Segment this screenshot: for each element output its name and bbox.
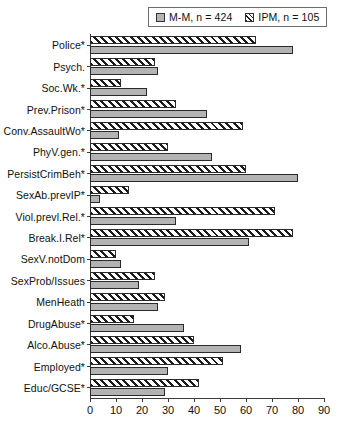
bar-row: Employed* [90,355,324,378]
bar-mm [90,303,158,311]
bar-chart: M-M, n = 424 IPM, n = 105 Police*Psych.S… [0,0,340,426]
bar-ipm [90,272,155,280]
legend-label-mm: M-M, n = 424 [169,11,232,23]
x-axis-tick [194,398,195,402]
x-axis-tick [272,398,273,402]
bar-ipm [90,36,256,44]
bar-ipm [90,336,194,344]
x-axis-tick [324,398,325,402]
bar-ipm [90,58,155,66]
bar-mm [90,367,168,375]
x-axis-tick [142,398,143,402]
category-label: PhyV.gen.* [33,146,85,158]
bar-row: SexV.notDom [90,248,324,271]
legend-swatch-solid-icon [156,13,165,22]
bar-mm [90,324,184,332]
bar-row: DrugAbuse* [90,312,324,335]
legend-item-mm: M-M, n = 424 [156,11,232,23]
category-label: SexV.notDom [21,253,85,265]
category-label: Conv.AssaultWo* [4,125,85,137]
bar-mm [90,238,249,246]
bar-mm [90,174,298,182]
x-axis-tick-label: 60 [240,404,252,416]
x-axis-tick-label: 40 [188,404,200,416]
bar-row: PersistCrimBeh* [90,162,324,185]
x-axis-tick [298,398,299,402]
x-axis-tick-label: 90 [318,404,330,416]
bar-ipm [90,100,176,108]
bar-mm [90,345,241,353]
bar-ipm [90,357,223,365]
legend-item-ipm: IPM, n = 105 [245,11,319,23]
bar-ipm [90,315,134,323]
x-axis-tick [116,398,117,402]
bar-mm [90,67,158,75]
legend-swatch-hatched-icon [245,13,254,22]
bar-row: PhyV.gen.* [90,141,324,164]
bar-row: Educ/GCSE* [90,377,324,400]
category-label: Alco.Abuse* [27,339,85,351]
category-label: Psych. [53,61,85,73]
category-label: Prev.Prison* [27,104,85,116]
bar-mm [90,195,100,203]
x-axis-tick-label: 80 [292,404,304,416]
bar-ipm [90,122,243,130]
bar-row: SexAb.prevIP* [90,184,324,207]
x-axis-tick-label: 0 [87,404,93,416]
category-label: Employed* [34,361,85,373]
x-axis-tick-label: 20 [136,404,148,416]
bar-ipm [90,186,129,194]
bar-mm [90,110,207,118]
category-label: SexAb.prevIP* [16,189,85,201]
x-axis-tick [168,398,169,402]
bar-mm [90,88,147,96]
x-axis-tick [220,398,221,402]
bar-row: Conv.AssaultWo* [90,120,324,143]
plot-area: Police*Psych.Soc.Wk.*Prev.Prison*Conv.As… [90,34,324,398]
x-axis-tick-label: 70 [266,404,278,416]
bar-ipm [90,293,165,301]
bar-row: Soc.Wk.* [90,77,324,100]
x-axis-tick-label: 30 [162,404,174,416]
category-label: MenHeath [36,296,85,308]
bar-row: Psych. [90,55,324,78]
bar-ipm [90,379,199,387]
bar-ipm [90,207,275,215]
bar-ipm [90,250,116,258]
chart-legend: M-M, n = 424 IPM, n = 105 [148,7,327,27]
bar-ipm [90,229,293,237]
category-label: Educ/GCSE* [24,382,85,394]
bar-ipm [90,79,121,87]
bar-mm [90,217,176,225]
category-label: SexProb/Issues [11,275,85,287]
x-axis-tick-label: 10 [110,404,122,416]
bar-row: SexProb/Issues [90,270,324,293]
category-label: PersistCrimBeh* [7,168,85,180]
bar-ipm [90,165,246,173]
category-label: Soc.Wk.* [41,82,85,94]
bar-ipm [90,143,168,151]
bar-row: Viol.prevl.Rel.* [90,205,324,228]
bar-row: Break.I.Rel* [90,227,324,250]
bar-row: Prev.Prison* [90,98,324,121]
x-axis-tick [90,398,91,402]
bar-row: Police* [90,34,324,57]
x-axis-tick [246,398,247,402]
bar-mm [90,46,293,54]
x-axis-tick-label: 50 [214,404,226,416]
bar-mm [90,281,139,289]
bar-mm [90,260,121,268]
legend-label-ipm: IPM, n = 105 [258,11,319,23]
category-label: DrugAbuse* [28,318,85,330]
bar-mm [90,153,212,161]
bar-mm [90,388,165,396]
bar-row: MenHeath [90,291,324,314]
bar-mm [90,131,119,139]
category-label: Police* [52,39,85,51]
category-label: Viol.prevl.Rel.* [16,211,85,223]
bar-row: Alco.Abuse* [90,334,324,357]
category-label: Break.I.Rel* [28,232,85,244]
